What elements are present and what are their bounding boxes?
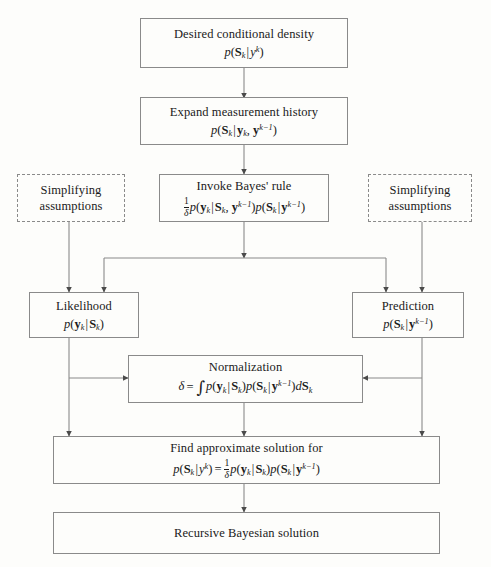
node-recursive-bayesian-solution[interactable]: Recursive Bayesian solution bbox=[53, 512, 440, 554]
assumptions-right-label-line2: assumptions bbox=[389, 198, 452, 214]
node-simplifying-assumptions-left[interactable]: Simplifying assumptions bbox=[17, 174, 125, 222]
assumptions-right-label-line1: Simplifying bbox=[390, 182, 451, 198]
node-prediction[interactable]: Prediction p(Sk|yk−1) bbox=[352, 292, 464, 338]
flowchart-diagram: Desired conditional density p(Sk|yk) Exp… bbox=[0, 0, 491, 567]
node-desired-formula: p(Sk|yk) bbox=[224, 44, 263, 60]
node-invoke-bayes-rule[interactable]: Invoke Bayes' rule 1δp(yk|Sk, yk−1)p(Sk|… bbox=[159, 174, 329, 222]
node-likelihood-label: Likelihood bbox=[56, 298, 112, 314]
node-desired-label: Desired conditional density bbox=[174, 26, 314, 42]
node-simplifying-assumptions-right[interactable]: Simplifying assumptions bbox=[368, 174, 472, 222]
node-find-approximate-solution[interactable]: Find approximate solution for p(Sk|yk)=1… bbox=[53, 436, 440, 484]
node-bayes-label: Invoke Bayes' rule bbox=[197, 178, 292, 194]
node-prediction-label: Prediction bbox=[382, 298, 434, 314]
node-approximate-label: Find approximate solution for bbox=[170, 440, 323, 456]
assumptions-left-label-line2: assumptions bbox=[40, 198, 103, 214]
node-recursive-label: Recursive Bayesian solution bbox=[174, 525, 319, 541]
node-normalization-label: Normalization bbox=[209, 359, 283, 375]
node-expand-label: Expand measurement history bbox=[170, 104, 318, 120]
node-expand-measurement-history[interactable]: Expand measurement history p(Sk|yk, yk−1… bbox=[140, 97, 348, 145]
node-desired-conditional-density[interactable]: Desired conditional density p(Sk|yk) bbox=[140, 18, 348, 68]
node-normalization-formula: δ=∫p(yk|Sk)p(Sk|yk−1)dSk bbox=[179, 377, 313, 398]
node-expand-formula: p(Sk|yk, yk−1) bbox=[211, 122, 277, 138]
node-likelihood-formula: p(yk|Sk) bbox=[64, 316, 104, 332]
node-normalization[interactable]: Normalization δ=∫p(yk|Sk)p(Sk|yk−1)dSk bbox=[128, 355, 363, 403]
node-prediction-formula: p(Sk|yk−1) bbox=[383, 316, 433, 332]
node-approximate-formula: p(Sk|yk)=1δp(yk|Sk)p(Sk|yk−1) bbox=[173, 458, 320, 479]
assumptions-left-label-line1: Simplifying bbox=[41, 182, 102, 198]
node-bayes-formula: 1δp(yk|Sk, yk−1)p(Sk|yk−1) bbox=[183, 196, 305, 217]
node-likelihood[interactable]: Likelihood p(yk|Sk) bbox=[29, 292, 139, 338]
